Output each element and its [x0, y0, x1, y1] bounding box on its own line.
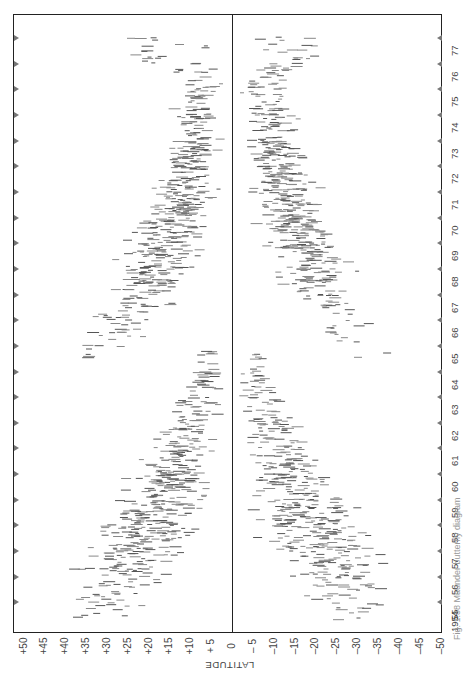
- year-tick-right-icon: [437, 599, 442, 605]
- latitude-tick-label: +10: [185, 633, 195, 659]
- year-tick-right-icon: [437, 86, 442, 92]
- year-tick-left-icon: [14, 240, 19, 246]
- year-tick-label: 74: [450, 121, 460, 133]
- latitude-tick-label: –30: [352, 633, 362, 659]
- year-tick-label: 76: [450, 70, 460, 82]
- year-tick-left-icon: [14, 138, 19, 144]
- latitude-tick-label: –15: [290, 633, 300, 659]
- year-tick-left-icon: [14, 599, 19, 605]
- latitude-tick-label: +30: [102, 633, 112, 659]
- year-tick-right-icon: [437, 420, 442, 426]
- year-tick-label: 63: [450, 403, 460, 415]
- year-tick-label: 66: [450, 326, 460, 338]
- year-tick-right-icon: [437, 445, 442, 451]
- year-tick-left-icon: [14, 35, 19, 41]
- latitude-tick-label: +15: [164, 633, 174, 659]
- year-tick-label: 70: [450, 224, 460, 236]
- year-tick-right-icon: [437, 215, 442, 221]
- year-tick-left-icon: [14, 574, 19, 580]
- year-tick-left-icon: [14, 445, 19, 451]
- year-tick-left-icon: [14, 61, 19, 67]
- year-tick-right-icon: [437, 112, 442, 118]
- year-tick-left-icon: [14, 163, 19, 169]
- year-tick-right-icon: [437, 35, 442, 41]
- latitude-tick-label: +35: [81, 633, 91, 659]
- x-axis-title: LATITUDE: [205, 660, 254, 671]
- latitude-tick-label: –45: [415, 633, 425, 659]
- year-tick-left-icon: [14, 343, 19, 349]
- latitude-tick-label: + 5: [206, 633, 216, 659]
- latitude-tick-label: +45: [39, 633, 49, 659]
- year-tick-label: 71: [450, 198, 460, 210]
- year-tick-right-icon: [437, 138, 442, 144]
- latitude-tick-label: 0: [227, 633, 237, 659]
- year-tick-right-icon: [437, 189, 442, 195]
- year-tick-label: 65: [450, 352, 460, 364]
- latitude-tick-label: +20: [144, 633, 154, 659]
- year-tick-label: 68: [450, 275, 460, 287]
- latitude-tick-label: –10: [269, 633, 279, 659]
- year-tick-label: 61: [450, 454, 460, 466]
- year-tick-label: 72: [450, 172, 460, 184]
- year-tick-left-icon: [14, 86, 19, 92]
- year-tick-right-icon: [437, 266, 442, 272]
- year-tick-right-icon: [437, 343, 442, 349]
- year-tick-label: 67: [450, 301, 460, 313]
- year-tick-left-icon: [14, 471, 19, 477]
- year-tick-right-icon: [437, 471, 442, 477]
- year-tick-label: 69: [450, 249, 460, 261]
- year-tick-left-icon: [14, 266, 19, 272]
- year-tick-label: 60: [450, 480, 460, 492]
- year-tick-left-icon: [14, 420, 19, 426]
- year-tick-right-icon: [437, 522, 442, 528]
- sunspot-dash-layer: [0, 0, 464, 677]
- year-tick-left-icon: [14, 292, 19, 298]
- year-tick-label: 64: [450, 378, 460, 390]
- year-tick-right-icon: [437, 292, 442, 298]
- figure-caption: Fig. 1.38 Maunder butterfly diagram: [452, 497, 462, 640]
- year-tick-right-icon: [437, 497, 442, 503]
- year-tick-left-icon: [14, 548, 19, 554]
- year-tick-left-icon: [14, 522, 19, 528]
- year-tick-left-icon: [14, 112, 19, 118]
- year-tick-right-icon: [437, 394, 442, 400]
- year-tick-right-icon: [437, 61, 442, 67]
- latitude-tick-label: – 5: [248, 633, 258, 659]
- latitude-tick-label: –40: [394, 633, 404, 659]
- year-tick-right-icon: [437, 548, 442, 554]
- latitude-tick-label: +40: [60, 633, 70, 659]
- year-tick-left-icon: [14, 369, 19, 375]
- year-tick-left-icon: [14, 317, 19, 323]
- year-tick-right-icon: [437, 240, 442, 246]
- latitude-tick-label: –35: [373, 633, 383, 659]
- year-tick-right-icon: [437, 163, 442, 169]
- year-tick-label: 62: [450, 429, 460, 441]
- year-tick-right-icon: [437, 317, 442, 323]
- latitude-tick-label: +50: [19, 633, 29, 659]
- latitude-tick-label: –20: [310, 633, 320, 659]
- year-tick-right-icon: [437, 369, 442, 375]
- year-tick-label: 77: [450, 44, 460, 56]
- year-tick-left-icon: [14, 394, 19, 400]
- year-tick-label: 75: [450, 95, 460, 107]
- latitude-tick-label: –25: [331, 633, 341, 659]
- year-tick-left-icon: [14, 497, 19, 503]
- latitude-tick-label: –50: [436, 633, 446, 659]
- year-tick-left-icon: [14, 215, 19, 221]
- latitude-tick-label: +25: [123, 633, 133, 659]
- year-tick-right-icon: [437, 574, 442, 580]
- year-tick-label: 73: [450, 147, 460, 159]
- year-tick-left-icon: [14, 189, 19, 195]
